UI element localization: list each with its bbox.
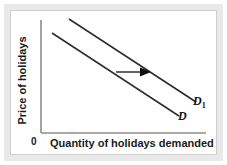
demand-curve-d (52, 33, 179, 116)
demand-curve-d1 (69, 19, 196, 102)
demand-curve-figure: Price of holidays Quantity of holidays d… (0, 0, 227, 165)
x-axis-label: Quantity of holidays demanded (50, 138, 214, 149)
curve-label-d1-subscript: 1 (202, 101, 206, 110)
curve-label-d1: D1 (193, 95, 206, 110)
curve-label-d1-text: D (193, 94, 202, 108)
curve-label-d: D (178, 110, 187, 122)
y-axis-label: Price of holidays (17, 34, 28, 128)
curve-label-d-text: D (178, 109, 187, 123)
origin-label: 0 (31, 136, 37, 147)
